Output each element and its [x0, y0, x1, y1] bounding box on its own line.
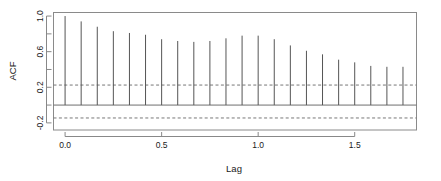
x-tick-label: 0.0	[59, 140, 71, 150]
plot-background	[0, 0, 441, 181]
y-tick-label: 1.0	[35, 10, 45, 22]
y-tick-label: -0.2	[35, 115, 45, 130]
x-tick-label: 0.5	[156, 140, 168, 150]
x-tick-label: 1.5	[349, 140, 361, 150]
x-tick-label: 1.0	[252, 140, 264, 150]
y-tick-label: 0.2	[35, 81, 45, 93]
y-axis-title: ACF	[7, 61, 18, 80]
acf-plot-container: 1.00.60.2-0.2 0.00.51.01.5 ACF Lag	[0, 0, 441, 181]
y-tick-label: 0.6	[35, 45, 45, 57]
x-axis-title: Lag	[226, 163, 242, 174]
acf-plot-svg: 1.00.60.2-0.2 0.00.51.01.5 ACF Lag	[0, 0, 441, 181]
